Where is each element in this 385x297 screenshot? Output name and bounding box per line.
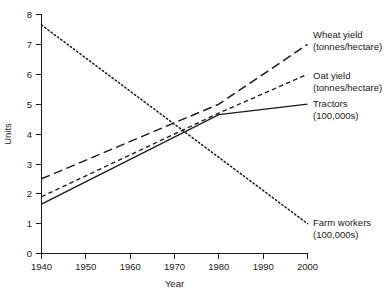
x-axis-ticks (42, 254, 308, 260)
x-tick-label-1940: 1940 (31, 261, 52, 272)
label-farm-workers-name: Farm workers (313, 217, 371, 228)
x-tick-label-2000: 2000 (297, 261, 318, 272)
x-tick-label-1960: 1960 (120, 261, 141, 272)
label-oat-name: Oat yield (313, 70, 351, 81)
x-tick-label-1950: 1950 (75, 261, 96, 272)
y-tick-label-3: 3 (27, 159, 32, 170)
y-tick-label-2: 2 (27, 188, 32, 199)
y-axis-ticks (36, 15, 42, 254)
label-oat-unit: (tonnes/hectare) (313, 82, 382, 93)
series-wheat-yield (42, 44, 308, 178)
chart-canvas: 8 7 6 5 4 3 2 1 0 1940 1950 1960 1970 19… (0, 0, 385, 297)
x-axis-title: Year (165, 278, 184, 289)
x-tick-label-1970: 1970 (164, 261, 185, 272)
y-tick-label-0: 0 (27, 248, 32, 259)
x-tick-label-1990: 1990 (253, 261, 274, 272)
y-tick-label-1: 1 (27, 218, 32, 229)
label-farm-workers-unit: (100,000s) (313, 229, 358, 240)
label-tractors-name: Tractors (313, 98, 348, 109)
line-chart: 8 7 6 5 4 3 2 1 0 1940 1950 1960 1970 19… (0, 0, 385, 297)
y-tick-label-7: 7 (27, 39, 32, 50)
y-axis-title: Units (2, 123, 13, 145)
series-oat-yield (42, 74, 308, 196)
y-tick-label-5: 5 (27, 99, 32, 110)
y-tick-label-8: 8 (27, 9, 32, 20)
series-tractors (42, 104, 308, 204)
x-tick-label-1980: 1980 (208, 261, 229, 272)
label-wheat-unit: (tonnes/hectare) (313, 41, 382, 52)
y-tick-label-4: 4 (27, 129, 32, 140)
label-tractors-unit: (100,000s) (313, 110, 358, 121)
label-wheat-name: Wheat yield (313, 29, 363, 40)
series-farm-workers (42, 25, 308, 224)
y-tick-label-6: 6 (27, 69, 32, 80)
